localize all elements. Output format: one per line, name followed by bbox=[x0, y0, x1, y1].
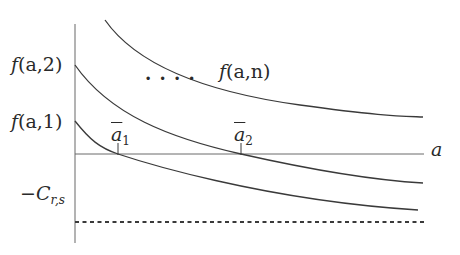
label-f-a-2-args: (a,2) bbox=[18, 53, 62, 75]
label-neg-c-prefix: −C bbox=[20, 182, 50, 204]
label-root-a1-base: a bbox=[111, 123, 122, 145]
label-neg-c-sub: r,s bbox=[50, 193, 64, 207]
label-root-a2-sub: 2 bbox=[245, 134, 253, 148]
label-f-a-n-fn: f bbox=[219, 60, 226, 82]
label-f-a-1: f(a,1) bbox=[11, 112, 62, 131]
label-f-a-1-args: (a,1) bbox=[18, 110, 62, 132]
label-root-a2: a2 bbox=[234, 125, 253, 147]
label-f-a-2: f(a,2) bbox=[11, 55, 62, 74]
label-f-a-n-args: (a,n) bbox=[226, 60, 270, 82]
label-f-a-n: f(a,n) bbox=[219, 62, 270, 81]
label-neg-c-rs: −Cr,s bbox=[20, 184, 65, 206]
label-f-a-2-fn: f bbox=[11, 53, 18, 75]
label-f-a-1-fn: f bbox=[11, 110, 18, 132]
curve-f-a-2 bbox=[75, 65, 423, 183]
ellipsis-dots: · · · · bbox=[145, 70, 196, 88]
label-root-a1: a1 bbox=[111, 125, 130, 147]
diagram-plot bbox=[0, 0, 460, 255]
x-axis-label: a bbox=[431, 140, 442, 159]
diagram-canvas: f(a,2) f(a,1) −Cr,s f(a,n) · · · · a1 a2… bbox=[0, 0, 460, 255]
label-root-a1-sub: 1 bbox=[122, 134, 130, 148]
label-root-a2-base: a bbox=[234, 123, 245, 145]
